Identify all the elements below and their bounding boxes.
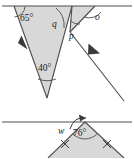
label-65-degrees: 65°	[20, 13, 34, 23]
parallel-arrow-right-icon	[88, 44, 100, 55]
label-angle-p: p	[68, 31, 74, 41]
parallel-ray-right	[70, 32, 124, 101]
label-76-degrees: 76°	[73, 128, 87, 138]
top-diagram: 65° 40° q p o	[2, 6, 132, 101]
geometry-figure-svg: 65° 40° q p o	[0, 0, 134, 158]
label-angle-o: o	[95, 12, 100, 22]
arrowhead-angle-w-icon	[79, 115, 86, 122]
geometry-figure: 65° 40° q p o	[0, 0, 134, 158]
label-angle-q: q	[52, 19, 57, 29]
label-angle-w: w	[58, 126, 65, 136]
label-40-degrees: 40°	[38, 63, 52, 73]
bottom-diagram: w 76°	[2, 115, 132, 159]
